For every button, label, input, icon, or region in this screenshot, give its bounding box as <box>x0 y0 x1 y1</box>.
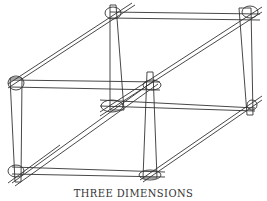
wireframe-box-drawing <box>0 0 267 201</box>
edge-rod <box>140 96 262 180</box>
corner-joint <box>105 7 121 19</box>
edge-rod <box>110 18 260 20</box>
vertical-post <box>239 8 253 115</box>
edge-rod <box>12 174 165 177</box>
edge-rod <box>110 12 260 14</box>
edge-rod <box>100 7 262 112</box>
edge-rod <box>100 12 262 116</box>
edge-rod <box>8 5 135 88</box>
edge-rod <box>8 3 132 84</box>
edge-rod <box>10 80 160 82</box>
vertical-post <box>10 78 22 182</box>
three-dimensions-diagram <box>0 0 267 201</box>
edge-rod <box>143 100 262 182</box>
diagram-caption: THREE DIMENSIONS <box>13 187 253 200</box>
vertical-post <box>110 5 124 110</box>
